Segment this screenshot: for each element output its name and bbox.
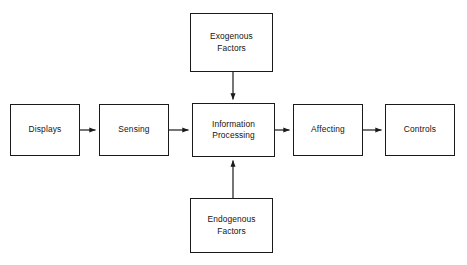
node-exogenous-factors[interactable]: Exogenous Factors [190,13,273,72]
node-affecting[interactable]: Affecting [293,104,363,156]
diagram-canvas: Displays Sensing Information Processing … [0,0,467,265]
node-controls[interactable]: Controls [385,104,455,156]
node-exogenous-factors-label: Exogenous Factors [208,31,255,53]
node-information-processing-label: Information Processing [210,119,257,141]
node-displays-label: Displays [27,124,64,135]
node-sensing[interactable]: Sensing [99,104,169,156]
node-displays[interactable]: Displays [10,104,80,156]
node-endogenous-factors[interactable]: Endogenous Factors [190,198,273,253]
node-endogenous-factors-label: Endogenous Factors [205,214,257,236]
node-affecting-label: Affecting [309,124,347,135]
node-sensing-label: Sensing [116,124,151,135]
node-information-processing[interactable]: Information Processing [192,103,275,157]
node-controls-label: Controls [402,124,438,135]
